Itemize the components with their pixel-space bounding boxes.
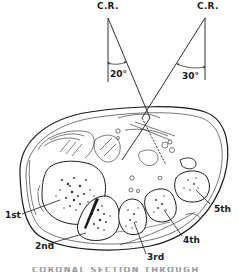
- central-ray-label-right: C.R.: [197, 2, 219, 11]
- foot-cross-section-drawing: [0, 0, 242, 272]
- angle-label-20: 20°: [110, 70, 127, 79]
- diagram-stage: C.R. C.R. 20° 30° 1st 2nd 3rd 4th 5th CO…: [0, 0, 242, 272]
- label-4th-metatarsal: 4th: [183, 236, 200, 245]
- central-ray-right: [122, 18, 205, 165]
- figure-caption-cropped: CORONAL SECTION THROUGH: [32, 267, 200, 272]
- metatarsal-5: [175, 171, 210, 202]
- central-ray-label-left: C.R.: [97, 2, 119, 11]
- metatarsal-4: [145, 189, 177, 222]
- label-2nd-metatarsal: 2nd: [35, 242, 54, 251]
- metatarsal-3: [119, 199, 147, 235]
- central-ray-left: [108, 18, 150, 118]
- metatarsal-bones: [42, 161, 209, 240]
- label-3rd-metatarsal: 3rd: [147, 253, 164, 262]
- label-5th-metatarsal: 5th: [214, 205, 231, 214]
- label-1st-metatarsal: 1st: [5, 211, 21, 220]
- angle-label-30: 30°: [182, 72, 199, 81]
